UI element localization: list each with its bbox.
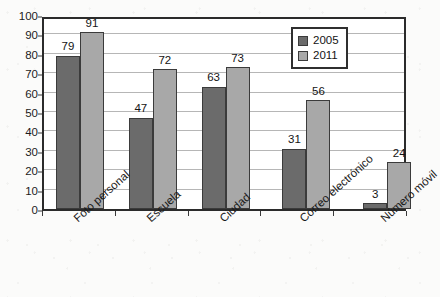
x-tick-mark [188, 211, 189, 216]
bar-2005-3[interactable] [202, 87, 226, 209]
bar-value-label: 73 [231, 53, 244, 65]
y-tick-label: 40 [4, 128, 38, 140]
bar-group: 7991 [44, 19, 117, 209]
y-tick-label: 90 [4, 31, 38, 43]
x-tick-mark [42, 211, 43, 216]
chart-legend: 20052011 [291, 27, 348, 69]
y-tick-label: 60 [4, 89, 38, 101]
x-tick-mark [115, 211, 116, 216]
y-tick-label: 70 [4, 69, 38, 81]
y-tick-label: 10 [4, 186, 38, 198]
bar-value-label: 79 [62, 41, 75, 53]
bar-2011-1[interactable] [80, 32, 104, 209]
bar-value-label: 91 [86, 18, 99, 30]
legend-item-2005[interactable]: 2005 [298, 33, 339, 48]
y-tick-label: 100 [4, 11, 38, 23]
x-tick-mark [333, 211, 334, 216]
bar-group: 6373 [190, 19, 263, 209]
bar-2005-4[interactable] [282, 149, 306, 209]
legend-item-2011[interactable]: 2011 [298, 48, 339, 63]
legend-swatch-icon [298, 51, 308, 61]
bar-value-label: 72 [158, 55, 171, 67]
bar-value-label: 24 [393, 148, 406, 160]
bar-2011-3[interactable] [226, 67, 250, 209]
bar-value-label: 63 [207, 72, 220, 84]
bar-2005-1[interactable] [56, 56, 80, 209]
x-tick-mark [406, 211, 407, 216]
legend-label: 2011 [313, 50, 338, 62]
y-axis: 1009080706050403020100 [0, 17, 38, 211]
y-tick-label: 20 [4, 166, 38, 178]
y-tick-label: 0 [4, 205, 38, 217]
bar-value-label: 31 [288, 134, 301, 146]
bar-2005-2[interactable] [129, 118, 153, 209]
legend-label: 2005 [313, 35, 339, 47]
y-tick-label: 30 [4, 147, 38, 159]
bar-value-label: 47 [134, 103, 147, 115]
bar-value-label: 3 [372, 189, 378, 201]
bar-value-label: 56 [312, 86, 325, 98]
bar-2005-5[interactable] [363, 203, 387, 209]
legend-swatch-icon [298, 36, 308, 46]
x-tick-mark [260, 211, 261, 216]
y-tick-label: 80 [4, 50, 38, 62]
y-tick-label: 50 [4, 108, 38, 120]
